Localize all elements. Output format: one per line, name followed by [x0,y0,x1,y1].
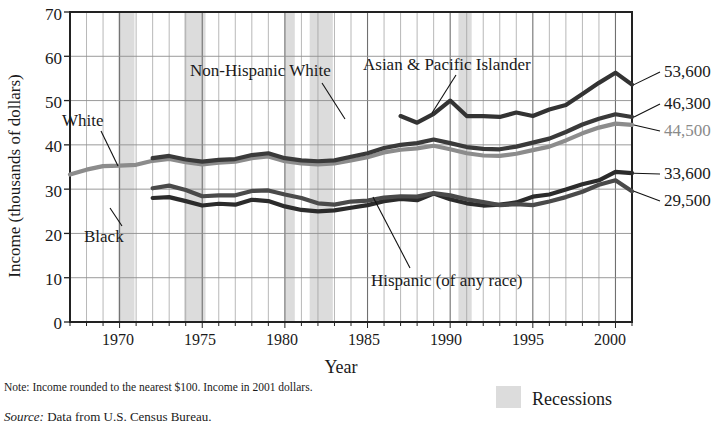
chart-note: Note: Income rounded to the nearest $100… [4,381,313,393]
end-label-33600: 33,600 [664,165,711,182]
end-label-44500: 44,500 [664,122,711,139]
plot-area [0,0,724,438]
recession-band-2 [285,12,295,322]
income-by-race-line-chart: Income (thousands of dollars) 70 60 50 4… [0,0,724,438]
end-label-46300: 46,300 [664,95,711,112]
recession-band-3 [310,12,333,322]
series-label-non-hispanic-white: Non-Hispanic White [190,62,331,79]
chart-source: Source: Data from U.S. Census Bureau. [4,409,211,425]
connector-46300 [634,104,660,117]
series-label-black: Black [84,228,124,245]
connector-29500 [634,191,660,201]
source-text: Data from U.S. Census Bureau. [47,409,211,424]
end-label-53600: 53,600 [664,63,711,80]
series-label-asian-pacific-islander: Asian & Pacific Islander [363,56,531,73]
recessions-legend-label: Recessions [532,390,612,408]
source-label: Source: [4,409,44,424]
series-label-hispanic: Hispanic (of any race) [371,272,523,289]
recessions-legend-swatch [496,386,521,408]
end-label-29500: 29,500 [664,192,711,209]
series-label-white: White [62,112,104,129]
connector-53600 [634,72,660,85]
connector-44500 [634,125,660,131]
connector-33600 [634,173,660,174]
